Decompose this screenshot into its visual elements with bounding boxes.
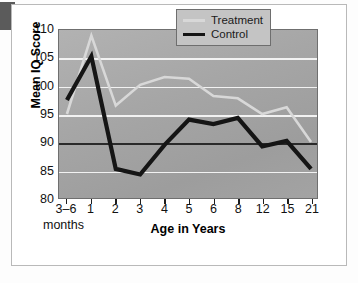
y-axis-title: Mean IQ Score [29, 5, 43, 125]
chart-legend: Treatment Control [176, 9, 271, 46]
x-axis-tick-labels: 3–61234568121521 [58, 202, 318, 218]
legend-label-treatment: Treatment [211, 14, 263, 26]
plot-area [58, 29, 318, 199]
figure-container: 11010510095908580 Mean IQ Score 3–612345… [0, 0, 358, 283]
legend-item-treatment: Treatment [183, 13, 263, 27]
legend-swatch-treatment-icon [183, 19, 205, 22]
x-axis-title: Age in Years [58, 222, 318, 236]
series-line-treatment [67, 36, 311, 142]
legend-item-control: Control [183, 27, 263, 41]
plot-wrapper [58, 29, 318, 199]
x-tick-label-10: 21 [292, 202, 332, 216]
y-tick-label-90: 90 [20, 135, 54, 149]
y-tick-label-85: 85 [20, 164, 54, 178]
legend-swatch-control-icon [183, 33, 205, 36]
series-lines [59, 30, 317, 198]
legend-label-control: Control [211, 28, 248, 40]
